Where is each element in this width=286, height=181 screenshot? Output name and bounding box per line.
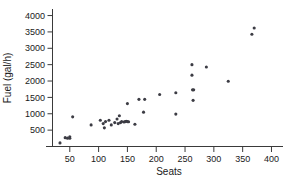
y-tick-label: 500 [30, 125, 45, 135]
data-point [250, 33, 253, 36]
data-point [143, 98, 146, 101]
data-point [104, 120, 107, 123]
data-point [253, 26, 256, 29]
data-point [58, 141, 61, 144]
y-tick-label: 4000 [25, 11, 45, 21]
x-tick-label: 200 [149, 154, 164, 164]
y-tick-label: 1500 [25, 93, 45, 103]
x-tick-label: 50 [65, 154, 75, 164]
y-tick-label: 1000 [25, 109, 45, 119]
data-point [126, 102, 129, 105]
y-tick-label: 3000 [25, 43, 45, 53]
data-point [107, 119, 110, 122]
data-point [90, 123, 93, 126]
data-point [118, 114, 121, 117]
data-point [137, 98, 140, 101]
y-tick-label: 2500 [25, 60, 45, 70]
data-point [133, 123, 136, 126]
data-point [115, 117, 118, 120]
data-point [158, 93, 161, 96]
y-tick-label: 3500 [25, 27, 45, 37]
scatter-chart: 5001000150020002500300035004000 50100150… [0, 0, 286, 181]
data-point [174, 91, 177, 94]
chart-canvas: 5001000150020002500300035004000 50100150… [0, 0, 286, 181]
data-point [142, 111, 145, 114]
x-tick-label: 250 [178, 154, 193, 164]
data-point [190, 74, 193, 77]
x-tick-label: 400 [264, 154, 279, 164]
data-point [205, 65, 208, 68]
y-axis-title: Fuel (gal/h) [2, 53, 13, 104]
data-point [110, 123, 113, 126]
data-point [227, 80, 230, 83]
data-point [192, 99, 195, 102]
data-point [71, 115, 74, 118]
data-point [190, 63, 193, 66]
x-tick-label: 300 [206, 154, 221, 164]
data-point [192, 88, 195, 91]
data-point [127, 120, 130, 123]
x-axis-title: Seats [156, 166, 182, 177]
data-point [99, 119, 102, 122]
x-tick-label: 150 [120, 154, 135, 164]
y-tick-label: 2000 [25, 76, 45, 86]
data-point [174, 113, 177, 116]
data-point [103, 126, 106, 129]
data-point [113, 121, 116, 124]
x-tick-label: 100 [91, 154, 106, 164]
data-point [68, 137, 71, 140]
x-tick-label: 350 [235, 154, 250, 164]
